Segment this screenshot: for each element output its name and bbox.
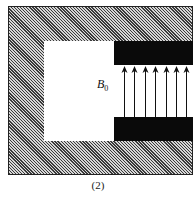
top-pole-piece — [114, 41, 193, 65]
up-arrow-icon — [163, 66, 170, 117]
field-subscript: 0 — [104, 84, 108, 93]
up-arrow-icon — [142, 66, 149, 117]
bottom-pole-piece — [114, 117, 193, 141]
up-arrow-icon — [121, 66, 128, 117]
up-arrow-icon — [152, 66, 159, 117]
up-arrow-icon — [131, 66, 138, 117]
field-label: B0 — [97, 77, 108, 93]
up-arrow-icon — [183, 66, 190, 117]
up-arrow-icon — [173, 66, 180, 117]
figure-caption: (2) — [0, 179, 196, 191]
magnet-diagram: B0 (2) — [0, 0, 196, 200]
